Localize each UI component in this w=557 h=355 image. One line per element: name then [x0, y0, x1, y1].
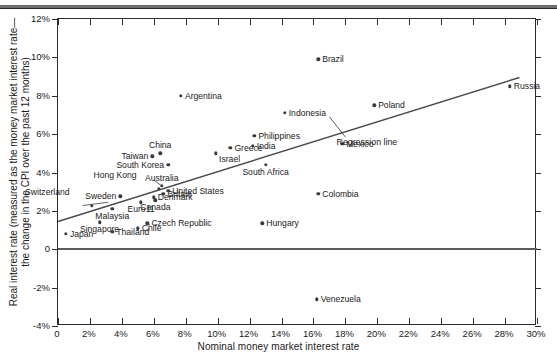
data-point-label: Poland — [378, 101, 405, 110]
y-tick-label: 2% — [14, 204, 50, 215]
regression-line-label: Regression line — [337, 137, 398, 147]
x-tick — [537, 318, 538, 324]
x-tick-label: 18% — [335, 328, 354, 339]
label-leader-line — [83, 202, 109, 205]
regression-line — [58, 78, 519, 222]
data-point-label: Canada — [140, 203, 170, 212]
data-point-label: India — [257, 141, 276, 150]
data-point-label: Australia — [145, 174, 178, 183]
data-point-label: China — [149, 141, 171, 150]
data-point-label: Sweden — [85, 192, 116, 201]
x-tick-label: 4% — [114, 328, 128, 339]
data-point-label: Brazil — [322, 55, 344, 64]
y-tick-label: -4% — [14, 320, 50, 331]
y-tick-label: 10% — [14, 51, 50, 62]
x-tick-label: 28% — [495, 328, 514, 339]
y-tick-label: 4% — [14, 166, 50, 177]
x-tick-label: 26% — [463, 328, 482, 339]
y-tick — [52, 326, 58, 327]
x-tick-label: 6% — [146, 328, 160, 339]
y-tick-label: 8% — [14, 89, 50, 100]
data-point-label: South Africa — [242, 168, 288, 177]
data-point-label: South Korea — [116, 160, 164, 169]
x-tick-label: 12% — [239, 328, 258, 339]
y-tick-label: 12% — [14, 13, 50, 24]
x-tick-label: 14% — [271, 328, 290, 339]
data-point-label: Hong Kong — [94, 170, 137, 179]
y-tick-label: 6% — [14, 128, 50, 139]
top-rule-thin — [0, 8, 557, 9]
x-axis-title: Nominal money market interest rate — [0, 341, 557, 352]
x-tick-label: 2% — [82, 328, 96, 339]
x-tick-label: 24% — [431, 328, 450, 339]
x-tick-label: 16% — [303, 328, 322, 339]
plot-area: JapanSwitzerlandSingaporeSwedenMalaysiaT… — [57, 18, 536, 325]
y-tick-label: -2% — [14, 281, 50, 292]
data-point-label: United States — [172, 186, 224, 195]
y-axis-title: Real interest rate (measured as the mone… — [8, 0, 32, 327]
data-point-label: Philippines — [258, 132, 300, 141]
data-point-label: Hungary — [266, 219, 298, 228]
data-point-label: Czech Republic — [151, 219, 211, 228]
chart-figure: Real interest rate (measured as the mone… — [0, 0, 557, 355]
x-tick-label: 10% — [207, 328, 226, 339]
x-tick-label: 0 — [54, 328, 59, 339]
x-tick-label: 20% — [367, 328, 386, 339]
x-tick-label: 30% — [526, 328, 545, 339]
y-tick-right — [535, 326, 541, 327]
x-tick-label: 22% — [399, 328, 418, 339]
data-point-label: Indonesia — [289, 109, 326, 118]
x-tick-label: 8% — [178, 328, 192, 339]
data-point-label: Colombia — [322, 189, 358, 198]
data-point-label: Russia — [514, 82, 540, 91]
data-point-label: Venezuela — [321, 295, 361, 304]
y-tick-label: 0 — [14, 243, 50, 254]
data-point-label: Argentina — [185, 91, 222, 100]
data-point-label: Malaysia — [95, 212, 129, 221]
data-point-label: Israel — [219, 155, 240, 164]
data-point-label: Switzerland — [25, 188, 69, 197]
